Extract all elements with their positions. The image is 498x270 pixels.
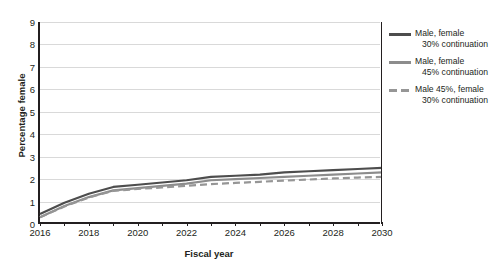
x-tick xyxy=(113,222,114,226)
x-tick-label: 2020 xyxy=(127,227,148,238)
y-tick-label: 3 xyxy=(30,151,35,162)
y-tick-label: 9 xyxy=(30,17,35,28)
x-tick xyxy=(333,222,334,226)
y-tick-label: 6 xyxy=(30,84,35,95)
x-tick-label: 2030 xyxy=(371,227,392,238)
y-tick-label: 1 xyxy=(30,196,35,207)
legend-swatch-icon xyxy=(389,33,411,36)
legend-label: Male, female45% continuation xyxy=(415,56,488,77)
x-tick-label: 2026 xyxy=(274,227,295,238)
x-tick xyxy=(40,222,41,226)
series-line-2 xyxy=(40,177,382,217)
chart-figure: Percentage female 0123456789 20162018202… xyxy=(0,0,498,270)
legend-swatch-icon xyxy=(389,89,411,92)
x-tick xyxy=(162,222,163,226)
y-axis-title: Percentage female xyxy=(16,41,27,191)
x-tick xyxy=(89,222,90,226)
y-tick-label: 5 xyxy=(30,106,35,117)
y-tick-label: 4 xyxy=(30,129,35,140)
x-tick-label: 2016 xyxy=(29,227,50,238)
x-tick xyxy=(260,222,261,226)
x-tick-label: 2022 xyxy=(176,227,197,238)
legend-separator xyxy=(381,22,382,224)
x-tick xyxy=(187,222,188,226)
y-tick-label: 2 xyxy=(30,174,35,185)
y-tick-label: 7 xyxy=(30,61,35,72)
x-tick xyxy=(211,222,212,226)
legend-entry: Male, female45% continuation xyxy=(389,56,497,77)
legend-entry: Male, female30% continuation xyxy=(389,28,497,49)
legend-label: Male 45%, female30% continuation xyxy=(415,84,488,105)
y-tick-label: 8 xyxy=(30,39,35,50)
x-tick-label: 2028 xyxy=(323,227,344,238)
series-line-1 xyxy=(40,172,382,217)
x-tick-label: 2018 xyxy=(78,227,99,238)
x-tick xyxy=(358,222,359,226)
x-tick-label: 2024 xyxy=(225,227,246,238)
x-axis-title: Fiscal year xyxy=(38,248,380,259)
legend-swatch-icon xyxy=(389,61,411,64)
x-tick xyxy=(235,222,236,226)
plot-area: 0123456789 20162018202020222024202620282… xyxy=(38,22,380,224)
x-tick xyxy=(382,222,383,226)
legend-entry: Male 45%, female30% continuation xyxy=(389,84,497,105)
x-tick xyxy=(284,222,285,226)
x-tick xyxy=(309,222,310,226)
x-tick xyxy=(64,222,65,226)
data-lines xyxy=(40,22,380,222)
legend-label: Male, female30% continuation xyxy=(415,28,488,49)
x-tick xyxy=(138,222,139,226)
chart-legend: Male, female30% continuationMale, female… xyxy=(389,28,497,112)
